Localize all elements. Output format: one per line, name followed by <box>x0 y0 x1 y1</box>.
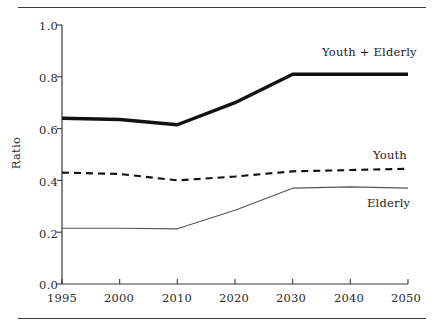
axis-lines <box>62 25 408 284</box>
series-line-youth <box>62 169 408 181</box>
series-line-elderly <box>62 187 408 229</box>
chart-figure: Ratio 1.0 0.8 0.6 0.4 0.2 0.0 1995 2000 … <box>0 0 440 328</box>
x-tick-marks <box>62 279 408 284</box>
series-line-youth-plus-elderly <box>62 74 408 125</box>
series-label-youth-plus-elderly: Youth + Elderly <box>322 45 417 59</box>
series-label-elderly: Elderly <box>367 196 410 210</box>
y-tick-marks <box>57 25 62 284</box>
series-label-youth: Youth <box>373 148 407 162</box>
